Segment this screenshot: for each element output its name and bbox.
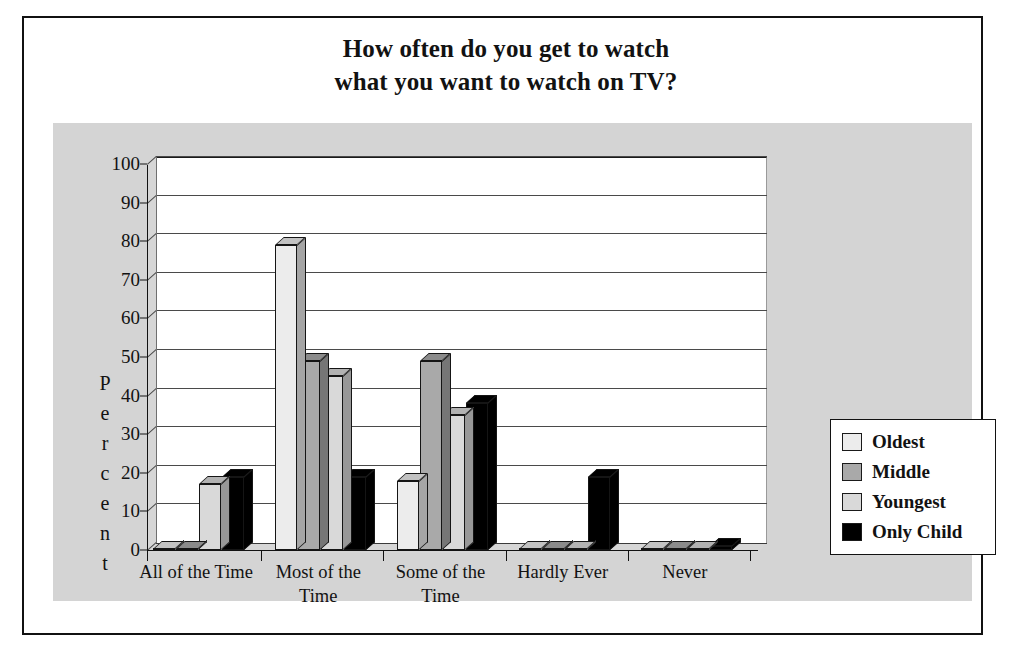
y-tick-mark (140, 434, 147, 435)
y-axis-title: Percent (93, 368, 117, 578)
gridline (156, 388, 767, 389)
bar-front-face (565, 548, 587, 550)
bar-front-face (275, 245, 297, 550)
y-axis-title-letter: e (93, 398, 117, 428)
x-category-label: Most of the Time (257, 560, 379, 608)
x-category-label: Hardly Ever (502, 560, 624, 584)
x-category-label: Some of the Time (379, 560, 501, 608)
chart-title: How often do you get to watch what you w… (56, 32, 956, 98)
gridline (156, 310, 767, 311)
bar-side-face (297, 237, 306, 550)
x-tick-mark (750, 550, 751, 561)
x-axis-line (147, 550, 758, 551)
legend-swatch-icon (842, 493, 862, 511)
bar-side-face (442, 353, 451, 550)
y-axis-title-letter: e (93, 488, 117, 518)
legend-item-label: Oldest (872, 432, 925, 452)
x-category-label: All of the Time (135, 560, 257, 584)
gridline (156, 272, 767, 273)
legend-swatch-icon (842, 433, 862, 451)
gridline (156, 195, 767, 196)
y-axis-title-letter: c (93, 458, 117, 488)
bar-front-face (176, 548, 198, 550)
bar-side-face (488, 395, 497, 550)
bar-front-face (588, 477, 610, 550)
bar-front-face (542, 548, 564, 550)
bar-side-face (419, 473, 428, 550)
y-tick-label: 100 (112, 153, 141, 175)
y-tick-mark (140, 472, 147, 473)
y-tick-label: 30 (121, 423, 140, 445)
plot-area: 1009080706050403020100 (147, 157, 767, 557)
bar-front-face (641, 548, 663, 550)
legend-item-label: Middle (872, 462, 930, 482)
y-tick-label: 40 (121, 385, 140, 407)
bar-side-face (343, 368, 352, 550)
y-tick-mark (140, 164, 147, 165)
y-tick-label: 90 (121, 192, 140, 214)
bar-side-face (366, 469, 375, 550)
bar[interactable] (519, 549, 541, 551)
y-tick-mark (140, 511, 147, 512)
bar[interactable] (153, 549, 175, 551)
bar[interactable] (565, 549, 587, 551)
legend-item[interactable]: Youngest (842, 490, 984, 513)
gridline (156, 349, 767, 350)
bar-side-face (221, 476, 230, 550)
y-axis-line (147, 165, 148, 551)
bar[interactable] (710, 546, 732, 550)
y-tick-mark (140, 395, 147, 396)
bar[interactable] (687, 549, 709, 551)
y-tick-label: 50 (121, 346, 140, 368)
bar-front-face (519, 548, 541, 550)
bar-front-face (153, 548, 175, 550)
legend-item-label: Youngest (872, 492, 946, 512)
legend-item[interactable]: Only Child (842, 520, 984, 543)
y-axis-title-letter: t (93, 548, 117, 578)
gridline (156, 156, 767, 157)
legend-swatch-icon (842, 523, 862, 541)
bar-front-face (397, 481, 419, 550)
y-axis-title-letter: P (93, 368, 117, 398)
bar[interactable] (641, 549, 663, 551)
bar-side-face (320, 353, 329, 550)
legend-swatch-icon (842, 463, 862, 481)
y-tick-label: 10 (121, 500, 140, 522)
chart-panel: Percent 1009080706050403020100 All of th… (53, 123, 972, 601)
bar[interactable] (397, 481, 419, 550)
y-tick-mark (140, 550, 147, 551)
bar-front-face (687, 548, 709, 550)
y-axis-title-letter: r (93, 428, 117, 458)
legend-item[interactable]: Oldest (842, 430, 984, 453)
chart-figure: How often do you get to watch what you w… (0, 0, 1014, 669)
y-tick-label: 60 (121, 307, 140, 329)
bar[interactable] (275, 245, 297, 550)
y-tick-label: 80 (121, 230, 140, 252)
y-axis-title-letter: n (93, 518, 117, 548)
bar-front-face (664, 548, 686, 550)
y-tick-mark (140, 202, 147, 203)
y-tick-mark (140, 279, 147, 280)
y-tick-mark (140, 241, 147, 242)
bar-side-face (610, 469, 619, 550)
bar-side-face (244, 469, 253, 550)
bar-side-face (465, 407, 474, 550)
bar[interactable] (542, 549, 564, 551)
x-category-label: Never (624, 560, 746, 584)
bar[interactable] (176, 549, 198, 551)
y-tick-label: 0 (131, 539, 141, 561)
chart-title-line-2: what you want to watch on TV? (56, 65, 956, 98)
y-tick-mark (140, 357, 147, 358)
bar-front-face (710, 546, 732, 550)
y-tick-mark (140, 318, 147, 319)
legend-item-label: Only Child (872, 522, 962, 542)
y-tick-label: 20 (121, 462, 140, 484)
chart-legend: OldestMiddleYoungestOnly Child (830, 419, 996, 555)
bar[interactable] (588, 477, 610, 550)
legend-item[interactable]: Middle (842, 460, 984, 483)
chart-title-line-1: How often do you get to watch (56, 32, 956, 65)
y-axis-back-edge (156, 157, 157, 543)
gridline (156, 233, 767, 234)
bar[interactable] (664, 549, 686, 551)
y-tick-label: 70 (121, 269, 140, 291)
